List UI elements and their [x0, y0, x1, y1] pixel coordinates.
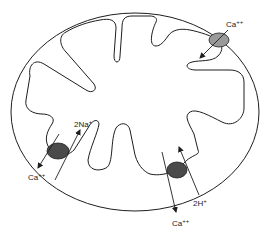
ca-efflux-arrow-bottom — [162, 152, 176, 212]
na-ca-exchanger: 2Na+ Ca++ — [28, 119, 93, 182]
h-ca-exchanger: 2H+ Ca++ — [162, 147, 207, 228]
na-label: 2Na+ — [74, 119, 93, 129]
uniporter-transporter: Ca++ — [200, 19, 244, 58]
ca-label-bottom: Ca++ — [172, 218, 190, 228]
h-label: 2H+ — [193, 198, 207, 208]
mitochondrion-diagram: Ca++ 2Na+ Ca++ 2H+ Ca++ — [0, 0, 271, 240]
ca-label-top: Ca++ — [226, 19, 244, 29]
ca-label-left: Ca++ — [28, 172, 46, 182]
